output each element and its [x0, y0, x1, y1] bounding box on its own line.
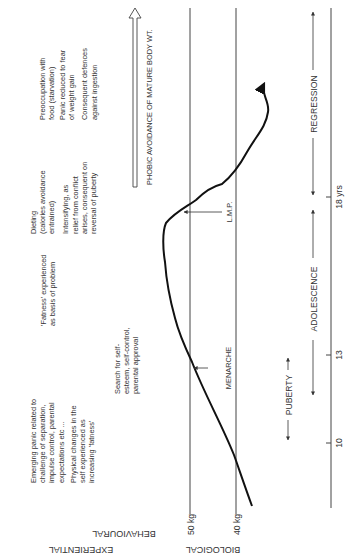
phase-label-adolescence: ADOLESCENCE [309, 266, 319, 331]
svg-text:MENARCHE: MENARCHE [224, 347, 233, 389]
svg-text:18 yrs: 18 yrs [334, 185, 344, 208]
svg-text:PHOBIC AVOIDANCE OF MATURE BOD: PHOBIC AVOIDANCE OF MATURE BODY WT. [145, 29, 154, 185]
marker-label-menarche: MENARCHE [224, 347, 233, 389]
weight-curve [163, 84, 268, 506]
behavioural-text-col2: Search for self- esteem, self-control, p… [113, 325, 140, 394]
row-label-experiential: EXPERIENTIAL [49, 545, 114, 555]
svg-text:Search for self- esteem,: Search for self- esteem, self-control, p… [113, 325, 140, 394]
row-label-biological: BIOLOGICAL [186, 545, 241, 555]
tick-label-18: 18 yrs [334, 185, 344, 208]
svg-text:Preoccupation with food: Preoccupation with food (starvation) Pan… [38, 46, 99, 120]
svg-text:'Fatness' experienced as: 'Fatness' experienced as basis of proble… [39, 253, 57, 327]
phase-label-puberty: PUBERTY [284, 375, 294, 416]
svg-text:BEHAVIOURAL: BEHAVIOURAL [92, 529, 155, 539]
svg-text:50 kg: 50 kg [186, 514, 196, 535]
svg-text:Emerging panic related to: Emerging panic related to challenge of s… [29, 397, 96, 483]
preoccupation-text: Preoccupation with food (starvation) Pan… [38, 46, 99, 120]
row-label-behavioural: BEHAVIOURAL [92, 529, 155, 539]
svg-text:EXPERIENTIAL: EXPERIENTIAL [49, 545, 114, 555]
svg-text:40 kg: 40 kg [232, 514, 242, 535]
svg-text:PUBERTY: PUBERTY [284, 375, 294, 416]
svg-text:BIOLOGICAL: BIOLOGICAL [186, 545, 241, 555]
svg-text:10: 10 [334, 438, 344, 448]
tick-label-10: 10 [334, 438, 344, 448]
experiential-text-col2: 'Fatness' experienced as basis of proble… [39, 253, 57, 327]
svg-text:Dieting (calories avoida: Dieting (calories avoidance entrained) I… [29, 160, 98, 234]
svg-text:ADOLESCENCE: ADOLESCENCE [309, 266, 319, 331]
phase-label-regression: REGRESSION [309, 75, 319, 132]
weight-label-40kg: 40 kg [232, 514, 242, 535]
phobic-avoidance-arrow [129, 8, 141, 187]
anorexia-development-diagram: 10 13 18 yrs 50 kg 40 kg EXPERIENTIAL BE… [0, 0, 346, 555]
svg-text:L.M.P.: L.M.P. [225, 202, 234, 222]
svg-text:REGRESSION: REGRESSION [309, 75, 319, 132]
svg-text:13: 13 [334, 350, 344, 360]
weight-label-50kg: 50 kg [186, 514, 196, 535]
experiential-text-col1: Emerging panic related to challenge of s… [29, 397, 96, 483]
phobic-avoidance-label: PHOBIC AVOIDANCE OF MATURE BODY WT. [145, 29, 154, 185]
marker-label-lmp: L.M.P. [225, 202, 234, 222]
dieting-text: Dieting (calories avoidance entrained) I… [29, 160, 98, 234]
tick-label-13: 13 [334, 350, 344, 360]
